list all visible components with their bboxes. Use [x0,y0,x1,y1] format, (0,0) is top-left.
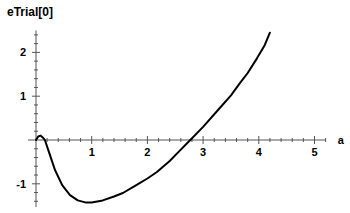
x-axis-label: a [338,134,345,146]
y-tick-label: -1 [16,178,26,190]
y-tick-label: 1 [20,90,26,102]
x-tick-label: 3 [200,146,206,158]
tick-labels: 12345-112 [16,46,317,189]
data-line [36,33,270,203]
x-tick-label: 4 [256,146,263,158]
x-tick-label: 2 [144,146,150,158]
y-tick-label: 2 [20,46,26,58]
axis-ticks [32,35,326,201]
axes [28,31,326,208]
x-tick-label: 5 [311,146,317,158]
x-tick-label: 1 [89,146,95,158]
line-chart: 12345-112 a [0,0,350,213]
